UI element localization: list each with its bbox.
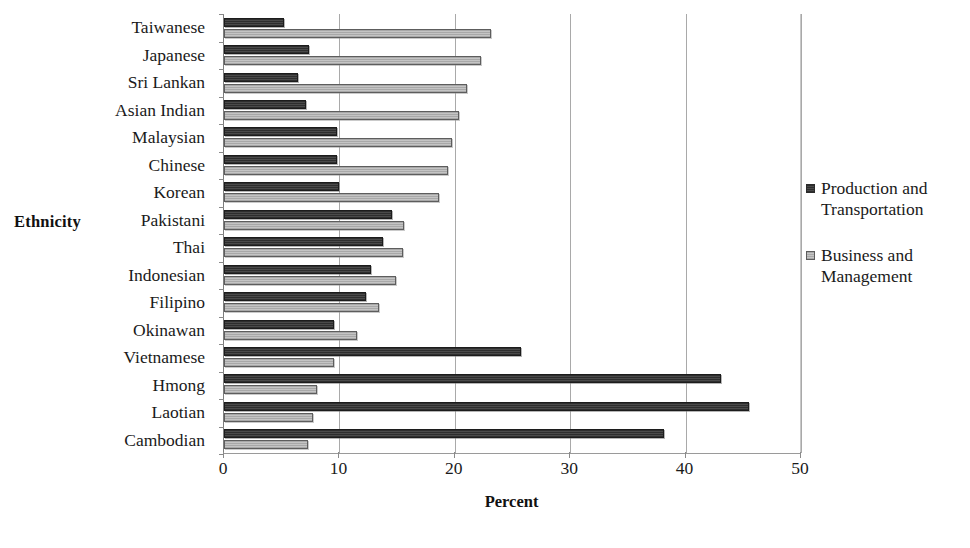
bar-business[interactable] <box>224 248 403 257</box>
y-axis-label: Vietnamese <box>0 344 214 372</box>
bar-business[interactable] <box>224 276 396 285</box>
y-axis-label: Taiwanese <box>0 14 214 42</box>
bar-group <box>224 69 800 96</box>
y-axis-label: Indonesian <box>0 262 214 290</box>
y-axis-label: Asian Indian <box>0 97 214 125</box>
bar-group <box>224 288 800 315</box>
bar-group <box>224 179 800 206</box>
y-axis-label: Korean <box>0 179 214 207</box>
legend-label: Business andManagement <box>821 245 913 286</box>
bar-production[interactable] <box>224 402 749 411</box>
y-axis-category-labels: TaiwaneseJapaneseSri LankanAsian IndianM… <box>0 14 214 454</box>
bar-production[interactable] <box>224 210 392 219</box>
y-axis-label: Okinawan <box>0 317 214 345</box>
y-axis-label: Hmong <box>0 372 214 400</box>
legend-label-line: Management <box>821 266 913 287</box>
bar-business[interactable] <box>224 166 448 175</box>
bar-group <box>224 261 800 288</box>
bar-group <box>224 41 800 68</box>
bar-group <box>224 14 800 41</box>
legend-label-line: Business and <box>821 245 913 266</box>
bar-production[interactable] <box>224 182 339 191</box>
legend-label: Production andTransportation <box>821 178 927 219</box>
bar-group <box>224 124 800 151</box>
legend-swatch-icon <box>806 184 815 193</box>
bar-business[interactable] <box>224 84 467 93</box>
x-axis-tick-label: 10 <box>330 458 348 479</box>
bar-business[interactable] <box>224 440 308 449</box>
y-axis-label: Malaysian <box>0 124 214 152</box>
bar-chart: TaiwaneseJapaneseSri LankanAsian IndianM… <box>0 0 970 548</box>
bar-groups <box>224 14 800 453</box>
x-axis-tick-label: 50 <box>791 458 809 479</box>
legend-swatch-icon <box>806 251 815 260</box>
bar-group <box>224 316 800 343</box>
bar-production[interactable] <box>224 45 309 54</box>
bar-business[interactable] <box>224 221 404 230</box>
bar-group <box>224 96 800 123</box>
bar-group <box>224 398 800 425</box>
bar-production[interactable] <box>224 292 366 301</box>
bar-business[interactable] <box>224 331 357 340</box>
bar-production[interactable] <box>224 265 371 274</box>
bar-group <box>224 371 800 398</box>
y-axis-label: Filipino <box>0 289 214 317</box>
bar-production[interactable] <box>224 73 298 82</box>
bar-production[interactable] <box>224 320 334 329</box>
legend-label-line: Production and <box>821 178 927 199</box>
bar-production[interactable] <box>224 127 337 136</box>
legend-label-line: Transportation <box>821 199 927 220</box>
bar-business[interactable] <box>224 56 481 65</box>
x-axis-title: Percent <box>223 492 800 512</box>
x-axis-tick-label: 0 <box>219 458 228 479</box>
y-axis-label: Sri Lankan <box>0 69 214 97</box>
legend-entry[interactable]: Production andTransportation <box>806 178 970 219</box>
bar-production[interactable] <box>224 155 337 164</box>
bar-business[interactable] <box>224 413 313 422</box>
bar-business[interactable] <box>224 111 459 120</box>
y-axis-label: Chinese <box>0 152 214 180</box>
bar-production[interactable] <box>224 100 306 109</box>
x-axis-tick-label: 40 <box>676 458 694 479</box>
bar-business[interactable] <box>224 385 317 394</box>
bar-group <box>224 426 800 453</box>
bar-business[interactable] <box>224 138 452 147</box>
legend: Production andTransportationBusiness and… <box>806 178 970 313</box>
legend-entry[interactable]: Business andManagement <box>806 245 970 286</box>
y-axis-label: Thai <box>0 234 214 262</box>
bar-business[interactable] <box>224 358 334 367</box>
y-axis-label: Japanese <box>0 42 214 70</box>
bar-group <box>224 151 800 178</box>
bar-production[interactable] <box>224 347 521 356</box>
bar-production[interactable] <box>224 429 664 438</box>
gridline <box>801 14 802 453</box>
x-axis-tick-labels: 01020304050 <box>223 458 800 484</box>
bar-business[interactable] <box>224 29 491 38</box>
plot-right-edge <box>800 14 801 454</box>
bar-production[interactable] <box>224 237 383 246</box>
bar-production[interactable] <box>224 374 721 383</box>
bar-business[interactable] <box>224 193 439 202</box>
y-axis-label: Cambodian <box>0 427 214 455</box>
y-axis-label: Laotian <box>0 399 214 427</box>
bar-group <box>224 206 800 233</box>
bar-group <box>224 343 800 370</box>
bar-production[interactable] <box>224 18 284 27</box>
y-axis-title: Ethnicity <box>14 212 124 232</box>
bar-business[interactable] <box>224 303 379 312</box>
plot-area <box>223 14 800 454</box>
x-axis-tick-label: 20 <box>445 458 463 479</box>
bar-group <box>224 234 800 261</box>
x-axis-tick-label: 30 <box>560 458 578 479</box>
